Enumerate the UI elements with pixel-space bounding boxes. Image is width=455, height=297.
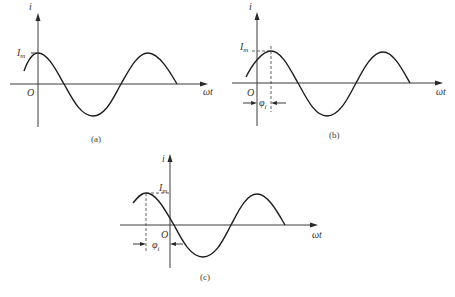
y-axis-arrow-icon — [168, 154, 173, 162]
origin-label: O — [27, 87, 34, 98]
y-axis-label: i — [29, 1, 32, 12]
phase-label: φi — [259, 97, 267, 111]
panel-caption: (b) — [329, 130, 340, 140]
phase-label: φi — [152, 239, 160, 253]
origin-label: O — [247, 87, 254, 98]
sinusoid-figure: i ωt O Im (a) i ωt O Im φi (b) — [0, 0, 455, 297]
panel-b: i ωt O Im φi (b) — [232, 1, 446, 140]
arrow-left-icon — [271, 101, 277, 105]
y-axis-label: i — [162, 153, 165, 164]
peak-label: Im — [239, 41, 248, 54]
origin-label: O — [161, 229, 168, 240]
arrow-right-icon — [251, 101, 257, 105]
x-axis-arrow-icon — [435, 81, 443, 86]
x-axis-arrow-icon — [310, 223, 318, 228]
y-axis-arrow-icon — [255, 12, 260, 20]
x-axis-label: ωt — [312, 229, 322, 240]
arrow-left-icon — [170, 242, 176, 246]
panel-caption: (a) — [91, 134, 101, 144]
y-axis-arrow-icon — [36, 13, 41, 21]
panel-caption: (c) — [200, 272, 210, 282]
arrow-right-icon — [140, 242, 146, 246]
panel-c: i ωt O Im φi (c) — [120, 153, 322, 282]
x-axis-label: ωt — [436, 86, 446, 97]
peak-label: Im — [16, 47, 25, 60]
peak-label: Im — [158, 182, 167, 195]
panel-a: i ωt O Im (a) — [10, 1, 213, 144]
x-axis-label: ωt — [203, 86, 213, 97]
y-axis-label: i — [249, 1, 252, 12]
